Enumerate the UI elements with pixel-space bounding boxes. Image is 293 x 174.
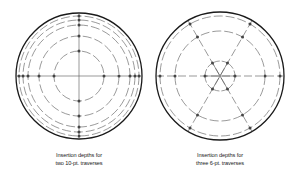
- insertion-point: [78, 135, 81, 138]
- insertion-point: [196, 113, 199, 116]
- insertion-point: [78, 100, 81, 103]
- ten-point-traverse-figure: [16, 13, 142, 139]
- insertion-point: [78, 126, 81, 129]
- insertion-point: [22, 75, 25, 78]
- insertion-point: [138, 75, 141, 78]
- insertion-point: [53, 75, 56, 78]
- insertion-point: [249, 23, 252, 26]
- insertion-point: [189, 23, 192, 26]
- caption-line-1: Insertion depths for: [160, 152, 280, 160]
- insertion-point: [78, 19, 81, 22]
- insertion-point: [27, 75, 30, 78]
- insertion-point: [103, 75, 106, 78]
- insertion-point: [279, 75, 282, 78]
- caption-line-1: Insertion depths for: [19, 152, 139, 160]
- insertion-point: [249, 126, 252, 129]
- insertion-point: [78, 15, 81, 18]
- insertion-point: [78, 115, 81, 118]
- insertion-point: [264, 75, 267, 78]
- insertion-point: [134, 75, 137, 78]
- caption-three-6pt-traverses: Insertion depths for three 6-pt. travers…: [160, 152, 280, 167]
- insertion-point: [174, 75, 177, 78]
- insertion-point: [78, 24, 81, 27]
- insertion-point: [78, 131, 81, 134]
- traverse-diagram: [0, 0, 293, 174]
- insertion-point: [241, 113, 244, 116]
- insertion-point: [189, 126, 192, 129]
- insertion-point: [78, 35, 81, 38]
- insertion-point: [129, 75, 132, 78]
- insertion-point: [241, 36, 244, 39]
- caption-line-2: three 6-pt. traverses: [160, 160, 280, 168]
- insertion-point: [118, 75, 121, 78]
- insertion-point: [159, 75, 162, 78]
- insertion-point: [78, 50, 81, 53]
- caption-two-10pt-traverses: Insertion depths for two 10-pt. traverse…: [19, 152, 139, 167]
- insertion-point: [196, 36, 199, 39]
- six-point-traverse-figure: [156, 12, 284, 140]
- caption-line-2: two 10-pt. traverses: [19, 160, 139, 168]
- insertion-point: [18, 75, 21, 78]
- insertion-point: [38, 75, 41, 78]
